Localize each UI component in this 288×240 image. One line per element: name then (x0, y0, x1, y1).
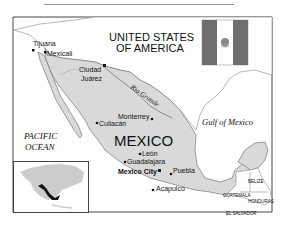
inset-map (14, 162, 89, 213)
label-guadalajara: Guadalajara (127, 158, 165, 165)
label-pacific-2: OCEAN (25, 143, 55, 152)
label-mexicali: Mexicali (47, 50, 72, 57)
label-honduras: HONDURAS (248, 200, 274, 205)
label-puebla: Puebla (173, 167, 195, 174)
label-mexico: MEXICO (114, 133, 173, 148)
label-gulf-of-mexico: Gulf of Mexico (202, 118, 253, 127)
label-leon: León (142, 150, 158, 157)
label-culiacan: Culiacán (99, 120, 126, 127)
label-juarez: Juárez (81, 75, 102, 82)
mexico-flag (202, 20, 248, 65)
label-acapulco: Acapulco (156, 185, 185, 192)
label-belize: BELIZE (248, 180, 264, 185)
label-monterrey: Monterrey (118, 113, 150, 120)
label-guatemala: GUATEMALA (223, 194, 250, 199)
label-mexico-city: Mexico City (118, 168, 157, 175)
label-pacific-1: PACIFIC (24, 132, 57, 141)
label-el-salvador: EL SALVADOR (226, 212, 256, 217)
label-tijuana: Tijuana (33, 40, 56, 47)
label-ciudad: Ciudad (79, 66, 101, 73)
label-usa-2: OF AMERICA (116, 43, 184, 54)
